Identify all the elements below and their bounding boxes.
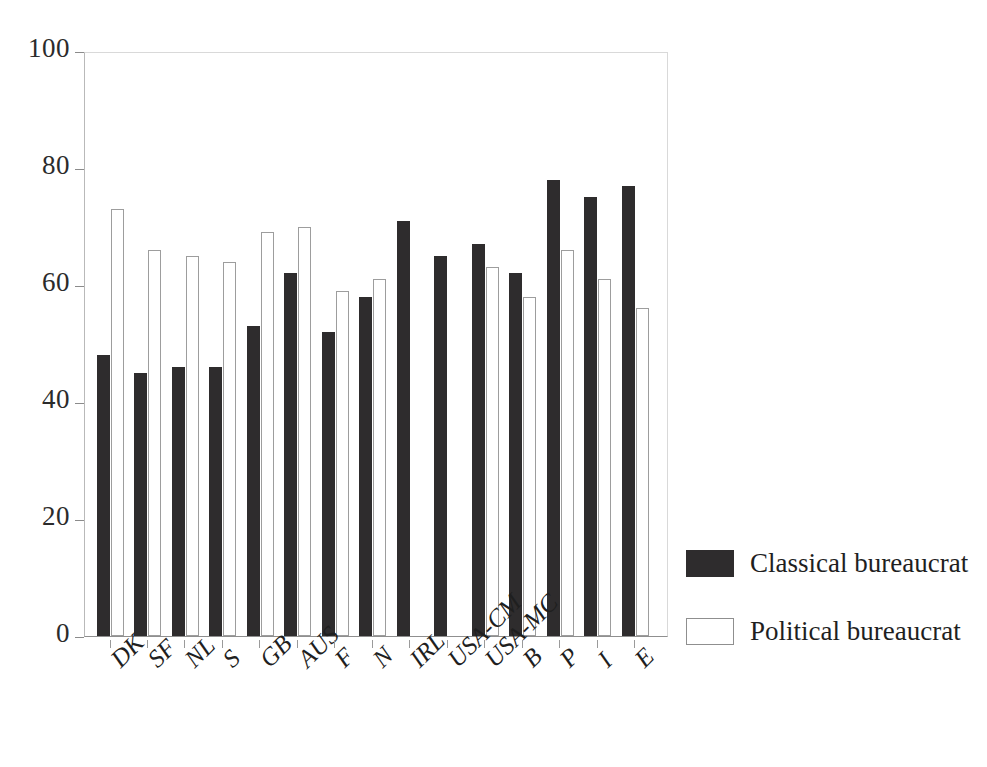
legend-label-classical: Classical bureaucrat (750, 549, 968, 577)
y-axis-tick-label: 40 (42, 386, 70, 413)
bar-gb-political (261, 232, 274, 636)
bar-e-political (636, 308, 649, 636)
bar-f-political (336, 291, 349, 636)
legend-swatch-political (686, 618, 734, 645)
bar-f-classical (322, 332, 335, 636)
legend-item-classical: Classical bureaucrat (686, 540, 981, 586)
chart-legend: Classical bureaucratPolitical bureaucrat (686, 540, 981, 676)
legend-label-political: Political bureaucrat (750, 617, 961, 645)
bar-usa-cm-classical (434, 256, 447, 636)
bar-aus-political (298, 227, 311, 637)
y-axis-tick-label: 100 (28, 35, 70, 62)
bar-dk-classical (97, 355, 110, 636)
bar-chart-figure: 020406080100 DKSFNLSGBAUSFNIRLUSA-CMUSA-… (0, 0, 987, 767)
bar-p-classical (547, 180, 560, 636)
y-axis-tick-mark (75, 52, 84, 53)
bar-dk-political (111, 209, 124, 636)
bar-n-classical (359, 297, 372, 636)
bar-gb-classical (247, 326, 260, 636)
plot-area (84, 52, 668, 637)
bar-b-political (523, 297, 536, 636)
y-axis-tick-mark (75, 637, 84, 638)
bars-container (85, 53, 667, 636)
y-axis: 020406080100 (0, 0, 84, 690)
y-axis-tick-label: 20 (42, 503, 70, 530)
bar-nl-political (186, 256, 199, 636)
y-axis-tick-mark (75, 403, 84, 404)
bar-s-classical (209, 367, 222, 636)
bar-sf-political (148, 250, 161, 636)
x-axis-label-s: S (218, 645, 245, 672)
y-axis-tick-label: 0 (56, 620, 70, 647)
y-axis-tick-mark (75, 286, 84, 287)
x-axis-label-n: N (368, 642, 397, 671)
bar-sf-classical (134, 373, 147, 636)
x-axis-label-b: B (518, 643, 546, 671)
y-axis-tick-label: 80 (42, 152, 70, 179)
x-axis-label-i: I (593, 648, 617, 672)
bar-e-classical (622, 186, 635, 636)
y-axis-tick-label: 60 (42, 269, 70, 296)
bar-b-classical (509, 273, 522, 636)
x-axis-label-nl: NL (180, 632, 219, 671)
bar-i-political (598, 279, 611, 636)
bar-usa-mc-political (486, 267, 499, 636)
x-axis-label-sf: SF (143, 634, 180, 671)
bar-usa-mc-classical (472, 244, 485, 636)
bar-s-political (223, 262, 236, 636)
bar-p-political (561, 250, 574, 636)
x-axis-label-e: E (630, 643, 658, 671)
bar-aus-classical (284, 273, 297, 636)
y-axis-tick-mark (75, 520, 84, 521)
x-axis: DKSFNLSGBAUSFNIRLUSA-CMUSA-MCBPIE (84, 640, 684, 767)
y-axis-tick-mark (75, 169, 84, 170)
legend-swatch-classical (686, 550, 734, 577)
bar-irl-classical (397, 221, 410, 636)
bar-n-political (373, 279, 386, 636)
x-axis-label-p: P (555, 643, 583, 671)
legend-item-political: Political bureaucrat (686, 608, 981, 654)
x-axis-label-f: F (330, 643, 358, 671)
bar-nl-classical (172, 367, 185, 636)
bar-i-classical (584, 197, 597, 636)
